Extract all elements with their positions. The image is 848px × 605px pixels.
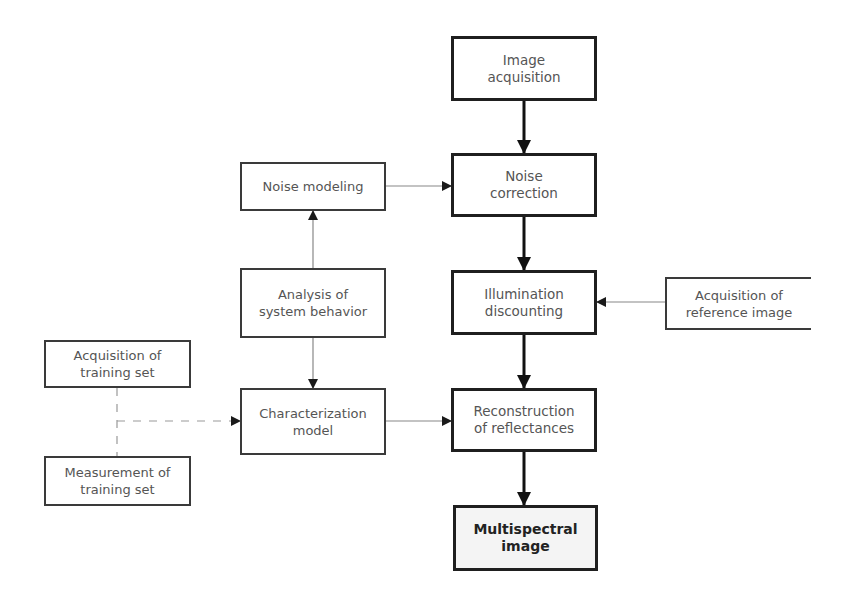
node-label: Noise correction [490,168,558,202]
node-measurement-of-training-set: Measurement of training set [44,456,191,506]
node-label: Measurement of training set [65,464,171,498]
node-noise-modeling: Noise modeling [240,162,386,211]
node-acquisition-of-training-set: Acquisition of training set [44,340,191,388]
node-image-acquisition: Image acquisition [451,36,597,101]
node-acquisition-of-reference-image: Acquisition of reference image [665,277,811,330]
node-label: Image acquisition [487,52,560,86]
node-multispectral-image: Multispectral image [453,505,598,571]
node-noise-correction: Noise correction [451,153,597,217]
node-label: Reconstruction of reflectances [473,403,574,437]
node-reconstruction-of-reflectances: Reconstruction of reflectances [451,388,597,452]
node-label: Multispectral image [473,521,577,555]
node-label: Characterization model [259,405,367,439]
node-analysis-of-system-behavior: Analysis of system behavior [240,268,386,338]
node-label: Acquisition of training set [74,347,162,381]
node-characterization-model: Characterization model [240,388,386,455]
node-label: Analysis of system behavior [259,286,367,320]
node-label: Acquisition of reference image [686,287,793,321]
node-label: Illumination discounting [484,286,564,320]
node-label: Noise modeling [263,178,364,195]
node-illumination-discounting: Illumination discounting [451,270,597,335]
